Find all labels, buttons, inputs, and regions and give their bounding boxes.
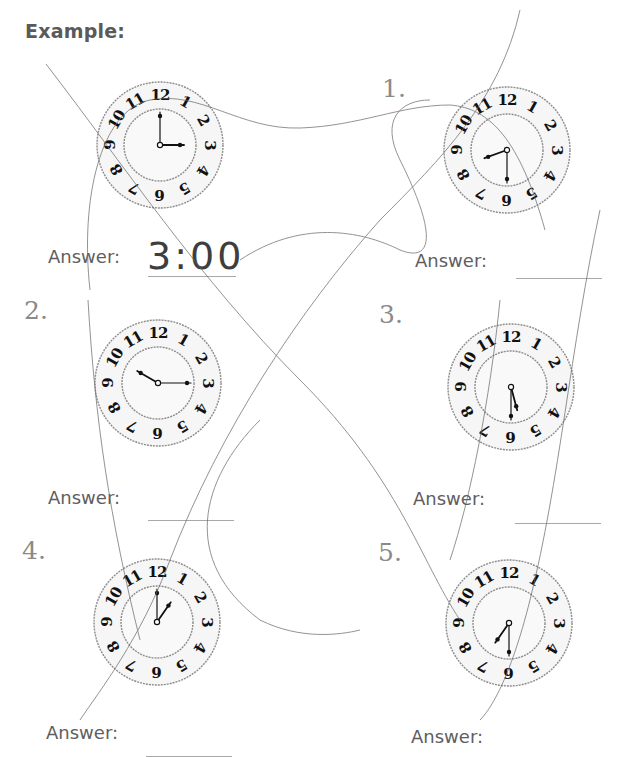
svg-text:12: 12 bbox=[151, 86, 170, 104]
problem-3-number: 3. bbox=[379, 300, 403, 329]
clock-face-icon: 121234567891011 bbox=[93, 318, 223, 448]
svg-text:9: 9 bbox=[98, 617, 116, 627]
svg-text:12: 12 bbox=[149, 324, 168, 342]
problem-5-number: 5. bbox=[378, 538, 402, 567]
svg-text:6: 6 bbox=[502, 191, 512, 209]
clock-face-icon: 121234567891011 bbox=[444, 558, 574, 688]
example-clock: 121234567891011 bbox=[95, 80, 225, 210]
svg-text:3: 3 bbox=[201, 140, 219, 150]
svg-text:9: 9 bbox=[101, 140, 119, 150]
problem-1-clock: 121234567891011 bbox=[442, 85, 572, 215]
svg-text:6: 6 bbox=[504, 664, 514, 682]
problem-2-answer-field[interactable] bbox=[148, 520, 234, 521]
example-heading: Example: bbox=[25, 20, 125, 42]
problem-3-answer-label: Answer: bbox=[413, 488, 485, 509]
clock-face-icon: 121234567891011 bbox=[442, 85, 572, 215]
problem-5-answer-label: Answer: bbox=[411, 726, 483, 747]
svg-text:3: 3 bbox=[550, 618, 568, 628]
problem-2-answer-label: Answer: bbox=[48, 487, 120, 508]
svg-text:12: 12 bbox=[500, 564, 519, 582]
problem-2-clock: 121234567891011 bbox=[93, 318, 223, 448]
problem-4-number: 4. bbox=[22, 536, 46, 565]
svg-text:3: 3 bbox=[548, 145, 566, 155]
problem-1-answer-label: Answer: bbox=[415, 250, 487, 271]
svg-text:12: 12 bbox=[148, 563, 167, 581]
problem-3-answer-field[interactable] bbox=[515, 523, 601, 524]
svg-text:6: 6 bbox=[155, 186, 165, 204]
svg-text:9: 9 bbox=[99, 378, 117, 388]
svg-text:3: 3 bbox=[198, 617, 216, 627]
example-answer-value: 3:00 bbox=[147, 234, 244, 278]
problem-3-clock: 121234567891011 bbox=[446, 322, 576, 452]
svg-text:6: 6 bbox=[506, 428, 516, 446]
example-answer-line bbox=[148, 276, 236, 277]
svg-text:9: 9 bbox=[452, 382, 470, 392]
problem-2-number: 2. bbox=[24, 296, 48, 325]
clock-face-icon: 121234567891011 bbox=[95, 80, 225, 210]
svg-text:12: 12 bbox=[502, 328, 521, 346]
svg-text:3: 3 bbox=[552, 382, 570, 392]
problem-4-clock: 121234567891011 bbox=[92, 557, 222, 687]
problem-5-clock: 121234567891011 bbox=[444, 558, 574, 688]
clock-face-icon: 121234567891011 bbox=[92, 557, 222, 687]
problem-4-answer-label: Answer: bbox=[46, 722, 118, 743]
svg-text:12: 12 bbox=[498, 91, 517, 109]
svg-text:3: 3 bbox=[199, 378, 217, 388]
problem-1-number: 1. bbox=[382, 74, 406, 103]
svg-text:6: 6 bbox=[152, 663, 162, 681]
svg-text:9: 9 bbox=[450, 618, 468, 628]
problem-1-answer-field[interactable] bbox=[516, 278, 602, 279]
svg-text:9: 9 bbox=[448, 145, 466, 155]
clock-face-icon: 121234567891011 bbox=[446, 322, 576, 452]
svg-text:6: 6 bbox=[153, 424, 163, 442]
example-answer-label: Answer: bbox=[48, 246, 120, 267]
